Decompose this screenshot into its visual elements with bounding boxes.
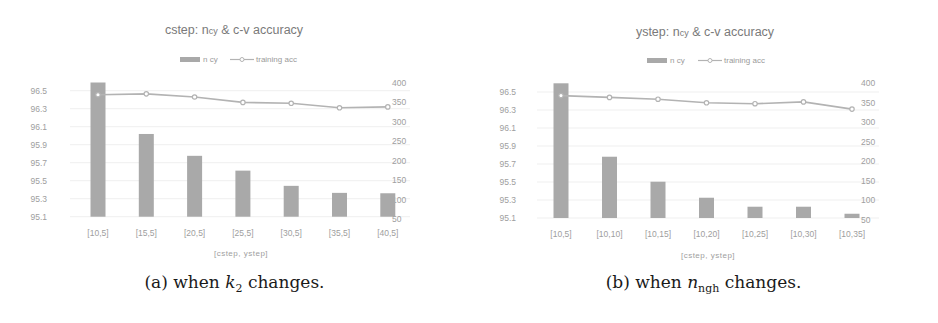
chart-b-svg: ystep: ncy & c-v accuracy n cy training … <box>469 0 938 270</box>
line-marker <box>559 93 563 97</box>
bar <box>748 207 763 218</box>
y-right-tick: 150 <box>861 176 875 186</box>
y-right-tick: 300 <box>861 117 875 127</box>
x-tick-label: [25,5] <box>232 228 253 238</box>
y-left-tick: 96.1 <box>499 123 516 133</box>
chart-panel-b: ystep: ncy & c-v accuracy n cy training … <box>469 0 938 323</box>
y-right-tick: 200 <box>392 156 406 166</box>
bar <box>284 186 299 217</box>
y-left-tick: 95.5 <box>499 177 516 187</box>
x-axis-label: [cstep, ystep] <box>681 251 735 260</box>
y-right-tick: 200 <box>861 156 875 166</box>
x-tick-label: [30,5] <box>281 228 302 238</box>
caption: (a) when k2 changes. <box>0 272 469 295</box>
y-left-tick: 95.1 <box>30 212 47 222</box>
line-marker <box>753 102 757 106</box>
bar <box>602 157 617 218</box>
legend-label-training-acc: training acc <box>724 56 765 65</box>
chart-a-svg: cstep: ncy & c-v accuracy n cy training … <box>0 0 469 270</box>
x-axis-ticks: [10,5][15,5][20,5][25,5][30,5][35,5][40,… <box>87 228 398 238</box>
y-left-tick: 96.3 <box>499 105 516 115</box>
x-tick-label: [10,10] <box>597 229 623 239</box>
y-left-tick: 96.1 <box>30 122 47 132</box>
x-tick-label: [10,25] <box>742 229 768 239</box>
bar <box>651 182 666 218</box>
bar <box>699 198 714 218</box>
bar <box>554 83 569 218</box>
line-marker <box>386 105 390 109</box>
legend-marker-icon <box>708 59 712 63</box>
y-left-tick: 95.7 <box>30 158 47 168</box>
legend: n cy training acc <box>180 55 297 64</box>
y-left-tick: 95.7 <box>499 159 516 169</box>
y-left-tick: 95.3 <box>30 194 47 204</box>
legend-bar-swatch <box>647 58 667 63</box>
chart-title: ystep: ncy & c-v accuracy <box>636 25 775 39</box>
line-marker <box>656 97 660 101</box>
bar <box>91 83 106 217</box>
y-right-tick: 250 <box>861 137 875 147</box>
caption: (b) when nngh changes. <box>469 272 938 295</box>
y-right-tick: 400 <box>861 78 875 88</box>
line-marker <box>144 92 148 96</box>
x-axis-ticks: [10,5][10,10][10,15][10,20][10,25][10,30… <box>550 229 865 239</box>
x-tick-label: [10,35] <box>839 229 865 239</box>
y-right-tick: 350 <box>861 98 875 108</box>
legend: n cy training acc <box>647 56 765 65</box>
y-left-tick: 95.1 <box>499 213 516 223</box>
y-right-tick: 150 <box>392 175 406 185</box>
line-marker <box>96 93 100 97</box>
x-axis-label: [cstep, ystep] <box>214 249 268 258</box>
x-tick-label: [15,5] <box>136 228 157 238</box>
line-marker <box>289 101 293 105</box>
y-right-tick: 100 <box>861 195 875 205</box>
y-left-tick: 95.5 <box>30 176 47 186</box>
line-marker <box>241 100 245 104</box>
y-left-tick: 96.5 <box>499 87 516 97</box>
bar <box>380 193 395 216</box>
line-marker <box>801 100 805 104</box>
legend-marker-icon <box>240 58 244 62</box>
line-marker <box>607 95 611 99</box>
line-marker <box>337 106 341 110</box>
chart-title: cstep: ncy & c-v accuracy <box>165 23 304 37</box>
y-right-tick: 250 <box>392 136 406 146</box>
y-axis-left: 96.596.396.195.995.795.595.395.1 <box>30 86 47 222</box>
y-right-tick: 50 <box>861 215 871 225</box>
bar <box>796 207 811 218</box>
legend-label-ncy: n cy <box>670 56 685 65</box>
legend-bar-swatch <box>180 57 200 62</box>
x-tick-label: [20,5] <box>184 228 205 238</box>
bar <box>235 171 250 217</box>
y-right-tick: 300 <box>392 117 406 127</box>
x-tick-label: [40,5] <box>377 228 398 238</box>
legend-label-training-acc: training acc <box>256 55 297 64</box>
line-series <box>96 92 390 110</box>
bar <box>845 214 860 218</box>
line-marker <box>192 95 196 99</box>
y-axis-left: 96.596.396.195.995.795.595.395.1 <box>499 87 516 223</box>
legend-label-ncy: n cy <box>203 55 218 64</box>
x-tick-label: [10,15] <box>645 229 671 239</box>
x-tick-label: [10,20] <box>694 229 720 239</box>
y-left-tick: 96.3 <box>30 104 47 114</box>
x-tick-label: [10,5] <box>550 229 571 239</box>
line-marker <box>850 107 854 111</box>
line-series <box>559 93 854 111</box>
y-left-tick: 95.9 <box>30 140 47 150</box>
x-tick-label: [35,5] <box>329 228 350 238</box>
x-tick-label: [10,5] <box>87 228 108 238</box>
chart-panel-a: cstep: ncy & c-v accuracy n cy training … <box>0 0 469 323</box>
x-tick-label: [10,30] <box>791 229 817 239</box>
bar <box>332 193 347 217</box>
bar <box>187 156 202 217</box>
y-left-tick: 95.9 <box>499 141 516 151</box>
y-left-tick: 96.5 <box>30 86 47 96</box>
bar <box>139 134 154 217</box>
y-right-tick: 400 <box>392 78 406 88</box>
y-left-tick: 95.3 <box>499 195 516 205</box>
line-marker <box>704 101 708 105</box>
y-axis-right: 40035030025020015010050 <box>861 78 875 225</box>
y-right-tick: 350 <box>392 97 406 107</box>
